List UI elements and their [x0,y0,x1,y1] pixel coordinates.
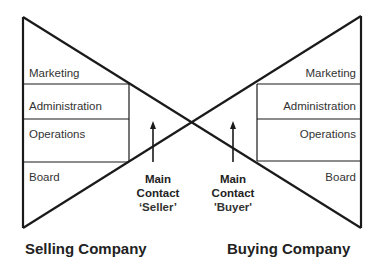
buying-level-marketing: Marketing [306,68,357,80]
buying-level-board: Board [325,172,356,184]
selling-level-operations: Operations [29,129,85,141]
seller-contact-line1: Main [128,172,188,186]
buying-level-administration: Administration [283,101,356,113]
selling-company-title: Selling Company [25,240,147,257]
buyer-contact-line2: Contact [203,186,263,200]
seller-contact-role: ‘Seller’ [128,200,188,214]
seller-contact-line2: Contact [128,186,188,200]
seller-contact-label: Main Contact ‘Seller’ [128,172,188,214]
buying-level-operations: Operations [300,129,356,141]
buyer-contact-arrow-icon [230,121,236,162]
buyer-contact-role: 'Buyer' [203,200,263,214]
selling-level-marketing: Marketing [29,68,80,80]
buying-company-title: Buying Company [227,240,350,257]
selling-level-board: Board [29,172,60,184]
buyer-contact-line1: Main [203,172,263,186]
selling-level-administration: Administration [29,101,102,113]
buyer-contact-label: Main Contact 'Buyer' [203,172,263,214]
seller-contact-arrow-icon [150,121,156,162]
